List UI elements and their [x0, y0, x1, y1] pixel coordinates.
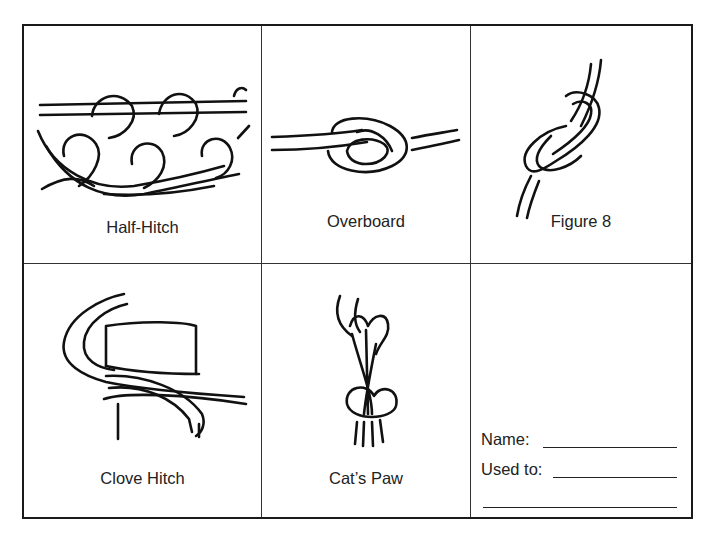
knot-cell-cats-paw: Cat’s Paw	[262, 264, 470, 517]
knot-label: Figure 8	[471, 212, 691, 231]
knot-label: Clove Hitch	[24, 469, 261, 488]
knot-label: Cat’s Paw	[262, 469, 470, 488]
knot-cell-figure-8: Figure 8	[471, 26, 691, 263]
knot-label: Overboard	[262, 212, 470, 231]
extra-write-line	[483, 507, 677, 508]
used-to-label: Used to:	[481, 460, 542, 479]
knot-sheet-frame: Half-Hitch Overboard Figure 8	[22, 24, 693, 519]
knot-cell-clove-hitch: Clove Hitch	[24, 264, 261, 517]
name-write-line	[543, 447, 677, 448]
name-label: Name:	[481, 430, 530, 449]
knot-cell-half-hitch: Half-Hitch	[24, 26, 261, 263]
name-form-cell: Name: Used to:	[471, 264, 691, 517]
used-to-write-line	[553, 477, 677, 478]
knot-label: Half-Hitch	[24, 218, 261, 237]
knot-cell-overboard: Overboard	[262, 26, 470, 263]
